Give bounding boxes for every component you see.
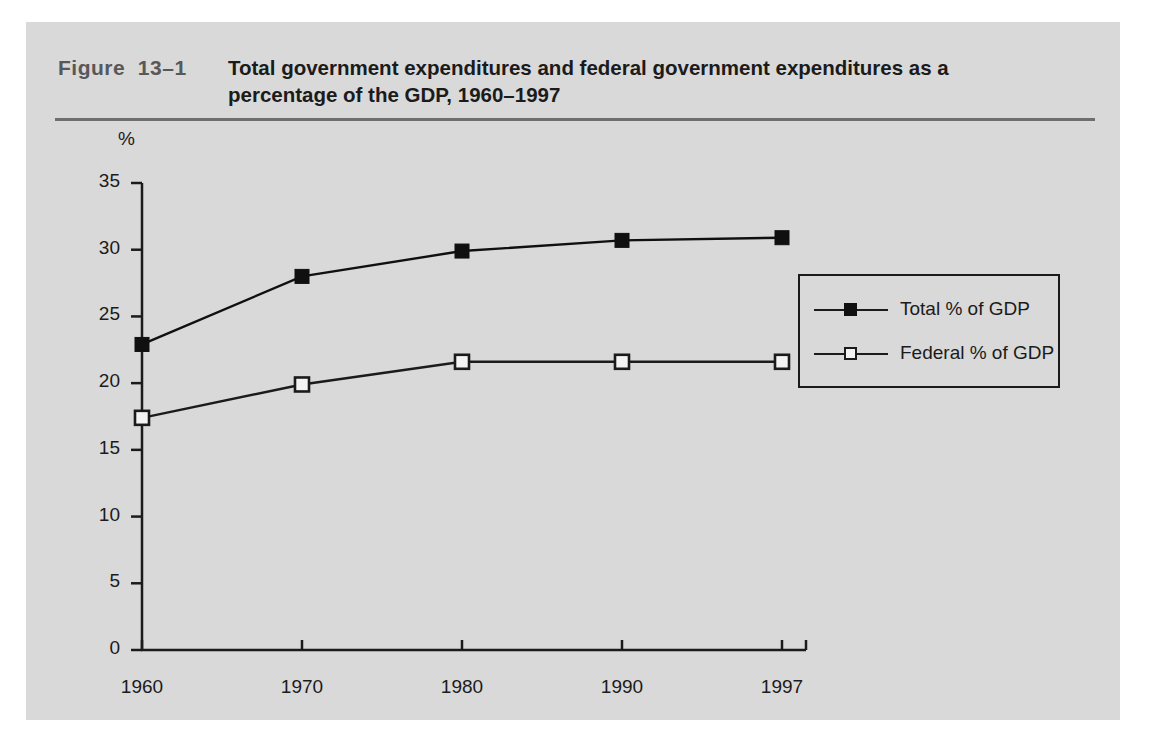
figure-root: Figure 13–1 Total government expenditure… (0, 0, 1158, 752)
y-tick-label-30: 30 (80, 237, 120, 259)
legend-item-total: Total % of GDP (800, 290, 1058, 330)
legend-item-federal: Federal % of GDP (800, 334, 1058, 374)
x-tick-label-1970: 1970 (262, 676, 342, 698)
figure-panel: Figure 13–1 Total government expenditure… (26, 22, 1120, 720)
y-tick-label-0: 0 (80, 637, 120, 659)
x-tick-label-1960: 1960 (102, 676, 182, 698)
y-axis-unit-label: % (118, 128, 135, 150)
y-tick-label-15: 15 (80, 437, 120, 459)
chart-legend: Total % of GDP Federal % of GDP (798, 274, 1060, 388)
y-tick-label-5: 5 (80, 570, 120, 592)
legend-label-federal: Federal % of GDP (900, 342, 1054, 364)
chart-plot-area: 05101520253035 19601970198019901997 % To… (26, 22, 1120, 720)
legend-marker-total-filled-square (844, 303, 857, 316)
y-tick-label-20: 20 (80, 370, 120, 392)
legend-label-total: Total % of GDP (900, 298, 1030, 320)
y-tick-label-10: 10 (80, 504, 120, 526)
legend-marker-federal-open-square (844, 347, 857, 360)
chart-series (135, 231, 789, 425)
y-tick-label-35: 35 (80, 170, 120, 192)
x-tick-label-1990: 1990 (582, 676, 662, 698)
x-tick-label-1980: 1980 (422, 676, 502, 698)
x-tick-label-1997: 1997 (742, 676, 822, 698)
y-tick-label-25: 25 (80, 303, 120, 325)
